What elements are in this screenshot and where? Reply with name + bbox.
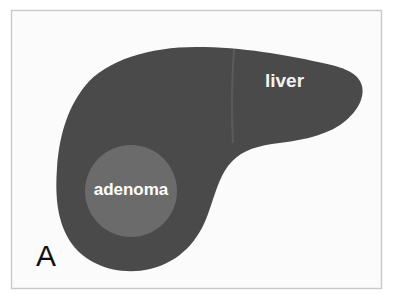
adenoma-label: adenoma xyxy=(94,180,169,199)
anatomical-schematic-canvas: liver adenoma A xyxy=(0,0,393,299)
liver-label: liver xyxy=(265,70,305,91)
panel-letter: A xyxy=(36,239,56,272)
figure-panel-a: liver adenoma A xyxy=(0,0,393,299)
